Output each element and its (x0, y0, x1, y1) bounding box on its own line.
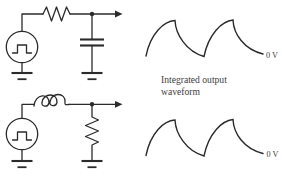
zero-volts-label: 0 V (267, 150, 279, 159)
square-wave-glyph-icon (13, 45, 32, 53)
integrated-waveform-bottom: 0 V (146, 120, 278, 160)
circuit-diagram-canvas: 0 V 0 V Integrated output waveform (0, 0, 282, 179)
output-arrow-icon (115, 101, 123, 108)
rl-integrator-circuit (6, 95, 122, 168)
ground-icon (82, 73, 103, 79)
integrated-waveform-top: 0 V (146, 20, 278, 60)
capacitor-icon (80, 14, 104, 73)
ground-icon (12, 150, 33, 168)
square-wave-glyph-icon (13, 132, 32, 140)
rc-integrator-circuit (6, 7, 122, 79)
caption-line-2: waveform (161, 86, 200, 97)
zero-volts-label: 0 V (266, 51, 278, 60)
ground-icon (12, 63, 33, 79)
waveform-curve (146, 120, 263, 157)
output-arrow-icon (115, 11, 123, 18)
square-wave-source-icon (6, 31, 37, 62)
caption: Integrated output waveform (161, 74, 227, 97)
resistor-icon (86, 106, 99, 161)
caption-line-1: Integrated output (161, 74, 227, 85)
ground-icon (82, 161, 103, 167)
resistor-icon (43, 7, 70, 21)
wire (22, 104, 34, 118)
inductor-icon (34, 95, 70, 107)
source-circle (6, 31, 37, 62)
wire (22, 14, 43, 31)
waveform-curve (146, 20, 263, 57)
integrator-circuits-figure: 0 V 0 V Integrated output waveform (0, 0, 282, 179)
square-wave-source-icon (6, 118, 37, 149)
source-circle (6, 118, 37, 149)
